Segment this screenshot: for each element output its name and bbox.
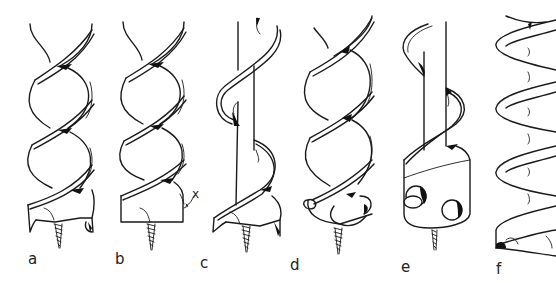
drill-bit-b [120, 22, 194, 250]
drill-bit-figure [0, 0, 556, 283]
drill-bit-e [403, 22, 470, 250]
label-a: a [28, 252, 37, 267]
label-c: c [200, 256, 208, 271]
annotation-x: x [192, 188, 199, 200]
label-b: b [115, 252, 125, 267]
label-f: f [496, 262, 501, 277]
drill-bit-a [28, 24, 95, 248]
label-e: e [401, 260, 410, 275]
drill-bit-f [496, 16, 556, 256]
label-d: d [290, 258, 300, 273]
drill-bit-c [213, 18, 281, 252]
drill-bit-d [304, 16, 374, 254]
